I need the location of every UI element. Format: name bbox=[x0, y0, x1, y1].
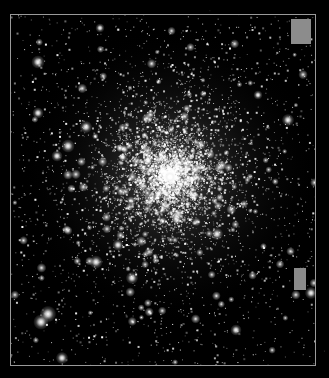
star-cluster-image bbox=[0, 0, 329, 378]
gray-rectangle-lower-right bbox=[294, 268, 306, 290]
gray-rectangle-top-right bbox=[291, 19, 311, 44]
